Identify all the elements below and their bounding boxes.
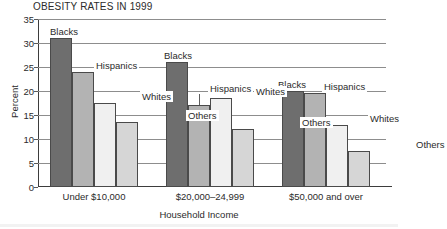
y-tick-mark [34,115,38,116]
bar-blacks-group-2 [282,91,304,187]
series-label-others-group-2: Others [414,139,447,150]
series-label-whites-group-2: Whites [368,113,401,124]
chart-title: OBESITY RATES IN 1999 [33,1,153,12]
page-edge-artifact [0,224,398,227]
gridline [38,19,386,20]
y-tick-label: 5 [29,158,34,169]
series-label-whites-group-0: Whites [140,91,173,102]
bar-blacks-group-0 [50,38,72,187]
y-tick-label: 30 [23,38,34,49]
bar-others-group-1 [232,129,254,187]
series-label-hispanics-group-0: Hispanics [94,60,139,71]
y-tick-mark [34,139,38,140]
y-tick-mark [34,163,38,164]
y-tick-label: 25 [23,62,34,73]
y-tick-mark [34,67,38,68]
y-axis-line [38,19,39,187]
y-tick-mark [34,19,38,20]
y-tick-label: 10 [23,134,34,145]
plot-area: 05101520253035BlacksBlacksBlacksHispanic… [38,19,386,187]
series-label-others-group-0: Others [186,110,219,121]
bar-whites-group-0 [94,103,116,187]
y-tick-label: 20 [23,86,34,97]
series-label-blacks-group-1: Blacks [162,50,194,61]
bar-whites-group-2 [326,125,348,187]
bar-others-group-2 [348,151,370,187]
x-axis-label: Household Income [0,209,398,220]
y-tick-label: 0 [29,182,34,193]
series-label-hispanics-group-1: Hispanics [208,83,253,94]
gridline [38,67,386,68]
leader-line-hispanics [199,94,200,105]
series-label-others-group-1: Others [300,117,333,128]
gridline [38,43,386,44]
bar-hispanics-group-0 [72,72,94,187]
y-tick-mark [34,43,38,44]
y-tick-label: 35 [23,14,34,25]
bar-blacks-group-1 [166,62,188,187]
x-category-label: $50,000 and over [289,191,363,202]
y-tick-label: 15 [23,110,34,121]
series-label-whites-group-1: Whites [254,86,287,97]
series-label-hispanics-group-2: Hispanics [322,81,367,92]
x-category-label: $20,000–24,999 [176,191,245,202]
y-tick-mark [34,91,38,92]
bar-others-group-0 [116,122,138,187]
x-category-label: Under $10,000 [63,191,126,202]
bar-hispanics-group-2 [304,93,326,187]
y-tick-mark [34,187,38,188]
y-axis-label: Percent [9,74,20,130]
series-label-blacks-group-0: Blacks [48,26,80,37]
